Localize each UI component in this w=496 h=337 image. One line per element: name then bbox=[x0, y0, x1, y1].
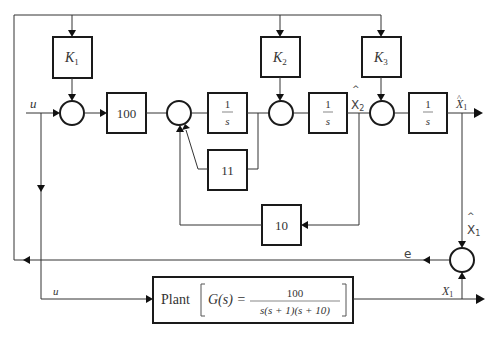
arrow-error-out bbox=[423, 256, 430, 264]
arrow-into-k2 bbox=[276, 30, 284, 37]
arrow-u-to-sum1 bbox=[53, 109, 60, 117]
error-label: e bbox=[404, 247, 411, 261]
arrow-x1-into-sum5 bbox=[458, 272, 466, 279]
int2-num: 1 bbox=[325, 98, 331, 110]
feedback-11-line bbox=[247, 113, 258, 169]
arrow-into-k1 bbox=[68, 30, 76, 37]
x1-hat-vert-caret: ^ bbox=[467, 211, 475, 221]
summing-junction-5 bbox=[450, 248, 474, 272]
summing-junction-2 bbox=[167, 101, 191, 125]
arrow-x1-hat-output bbox=[474, 108, 483, 118]
arrow-u-into-plant bbox=[146, 295, 153, 303]
arrow-u-branch-down bbox=[37, 185, 45, 192]
int3-den: s bbox=[426, 115, 430, 127]
arrow-into-gain10 bbox=[301, 221, 308, 229]
arrow-k2-to-sum3 bbox=[276, 94, 284, 101]
int1-num: 1 bbox=[225, 98, 231, 110]
summing-junction-3 bbox=[269, 101, 293, 125]
u-label-bottom: u bbox=[53, 285, 59, 297]
block-diagram: K1 K2 K3 u u 100 1 s 11 1 s ^ X2 bbox=[0, 0, 496, 337]
gain11-to-sum2-line bbox=[186, 130, 208, 169]
gain-10-label: 10 bbox=[275, 218, 288, 233]
arrow-x1-hat-into-sum5 bbox=[458, 241, 466, 248]
x1-hat-vert-label: X1 bbox=[467, 223, 480, 238]
plant-numerator: 100 bbox=[287, 287, 304, 299]
plant-lhs: G(s) = bbox=[208, 292, 246, 308]
gain-11-label: 11 bbox=[221, 163, 234, 178]
plant-denominator: s(s + 1)(s + 10) bbox=[260, 304, 330, 317]
u-branch-line bbox=[41, 113, 148, 299]
int2-den: s bbox=[326, 115, 330, 127]
x2-hat-label: X2 bbox=[351, 98, 364, 113]
plant-label: Plant bbox=[161, 292, 190, 307]
summing-junction-4 bbox=[370, 101, 394, 125]
summing-junction-1 bbox=[60, 101, 84, 125]
arrow-into-k3 bbox=[377, 30, 385, 37]
arrow-k3-to-sum4 bbox=[377, 94, 385, 101]
u-label-top: u bbox=[30, 96, 37, 111]
arrow-k1-to-sum1 bbox=[68, 94, 76, 101]
int3-num: 1 bbox=[425, 98, 431, 110]
gain-100-label: 100 bbox=[117, 106, 137, 121]
x2-hat-caret: ^ bbox=[352, 84, 360, 94]
int1-den: s bbox=[225, 115, 229, 127]
arrow-error-left bbox=[23, 256, 30, 264]
x1-label: X1 bbox=[441, 284, 453, 299]
arrow-into-gain100 bbox=[100, 109, 107, 117]
arrow-x1-output bbox=[476, 294, 485, 304]
